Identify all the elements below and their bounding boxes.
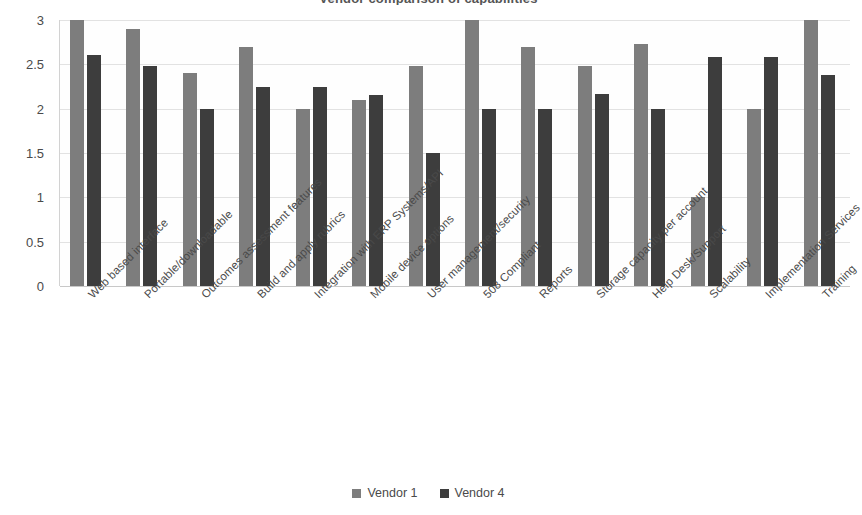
bar-vendor-4[interactable] — [708, 57, 722, 286]
bar-vendor-4[interactable] — [595, 94, 609, 286]
bar-vendor-4[interactable] — [651, 109, 665, 286]
y-tick-label: 1.5 — [26, 146, 44, 161]
plot-area — [60, 20, 850, 286]
legend-item[interactable]: Vendor 1 — [352, 486, 417, 500]
bar-vendor-4[interactable] — [821, 75, 835, 286]
bar-group — [60, 20, 116, 286]
bar-vendor-4[interactable] — [482, 109, 496, 286]
legend-label: Vendor 1 — [367, 486, 417, 500]
legend-item[interactable]: Vendor 4 — [440, 486, 505, 500]
bar-vendor-4[interactable] — [143, 66, 157, 286]
bar-vendor-4[interactable] — [764, 57, 778, 286]
legend-label: Vendor 4 — [455, 486, 505, 500]
bar-group — [568, 20, 624, 286]
y-tick-label: 3 — [37, 13, 44, 28]
y-tick-label: 2 — [37, 101, 44, 116]
bar-vendor-4[interactable] — [256, 87, 270, 287]
bar-vendor-4[interactable] — [538, 109, 552, 286]
chart-title: Vendor comparison of capabilities — [0, 0, 857, 5]
y-tick-label: 2.5 — [26, 57, 44, 72]
y-tick-label: 1 — [37, 190, 44, 205]
bar-group — [737, 20, 793, 286]
chart-legend: Vendor 1Vendor 4 — [0, 486, 857, 500]
x-axis-labels: Web based interfacePortable/downloadable… — [60, 288, 850, 468]
bar-vendor-4[interactable] — [200, 109, 214, 286]
bar-vendor-1[interactable] — [578, 66, 592, 286]
bar-vendor-4[interactable] — [369, 95, 383, 286]
bar-vendor-1[interactable] — [70, 20, 84, 286]
bar-vendor-4[interactable] — [87, 55, 101, 286]
y-tick-label: 0.5 — [26, 234, 44, 249]
legend-swatch-icon — [352, 489, 361, 498]
y-tick-label: 0 — [37, 279, 44, 294]
y-axis: 00.511.522.53 — [0, 20, 52, 286]
gridline — [60, 286, 850, 287]
legend-swatch-icon — [440, 489, 449, 498]
